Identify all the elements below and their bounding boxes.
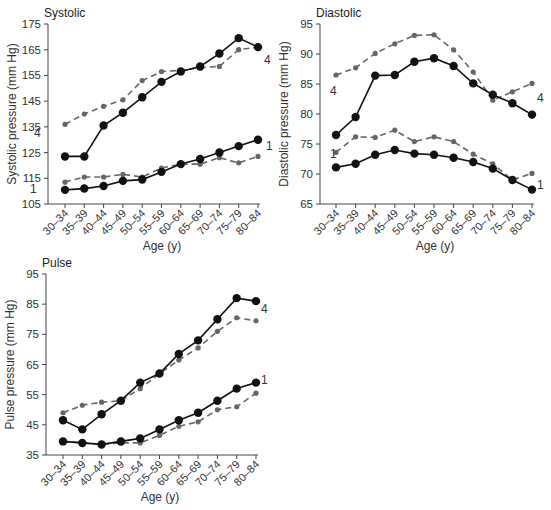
data-point bbox=[373, 135, 378, 140]
y-tick-label: 75 bbox=[26, 328, 39, 340]
data-point bbox=[99, 182, 107, 190]
y-axis-label: Pulse pressure (mm Hg) bbox=[3, 299, 17, 429]
systolic-chart: Systolic10511512513514515516517530–3435–… bbox=[5, 6, 273, 253]
data-point bbox=[80, 403, 85, 408]
data-point bbox=[140, 78, 145, 83]
series-4-dashed bbox=[60, 315, 258, 415]
data-point bbox=[451, 139, 456, 144]
data-point bbox=[235, 142, 243, 150]
data-point bbox=[410, 149, 418, 157]
data-point bbox=[471, 152, 476, 157]
data-point bbox=[392, 41, 397, 46]
x-axis-label: Age (y) bbox=[143, 239, 182, 253]
data-point bbox=[391, 71, 399, 79]
data-point bbox=[196, 419, 201, 424]
data-point bbox=[157, 433, 162, 438]
series-4-solid bbox=[59, 294, 260, 434]
data-point bbox=[215, 407, 220, 412]
data-point bbox=[235, 34, 243, 42]
data-point bbox=[155, 425, 163, 433]
data-point bbox=[61, 152, 69, 160]
chart-title: Systolic bbox=[44, 6, 85, 20]
series-label: 4 bbox=[330, 84, 337, 98]
data-point bbox=[233, 294, 241, 302]
data-point bbox=[391, 146, 399, 154]
y-tick-label: 95 bbox=[26, 268, 39, 280]
y-tick-label: 175 bbox=[22, 18, 41, 30]
data-point bbox=[351, 113, 359, 121]
data-point bbox=[177, 67, 185, 75]
data-point bbox=[371, 71, 379, 79]
data-point bbox=[412, 33, 417, 38]
data-point bbox=[101, 104, 106, 109]
data-point bbox=[119, 177, 127, 185]
data-point bbox=[469, 79, 477, 87]
data-point bbox=[138, 175, 146, 183]
data-point bbox=[431, 32, 436, 37]
data-point bbox=[194, 336, 202, 344]
data-point bbox=[410, 58, 418, 66]
data-point bbox=[449, 154, 457, 162]
data-point bbox=[217, 64, 222, 69]
data-point bbox=[412, 139, 417, 144]
y-tick-label: 95 bbox=[300, 18, 313, 30]
blood-pressure-charts: Systolic10511512513514515516517530–3435–… bbox=[0, 0, 551, 510]
data-point bbox=[61, 186, 69, 194]
data-point bbox=[451, 47, 456, 52]
y-tick-label: 65 bbox=[26, 359, 39, 371]
diastolic-chart: Diastolic6570758085909530–3435–3940–4445… bbox=[277, 6, 544, 253]
data-point bbox=[489, 164, 497, 172]
y-tick-label: 85 bbox=[26, 298, 39, 310]
data-point bbox=[234, 315, 239, 320]
data-point bbox=[138, 93, 146, 101]
data-point bbox=[236, 47, 241, 52]
data-point bbox=[78, 439, 86, 447]
data-point bbox=[194, 409, 202, 417]
y-tick-label: 85 bbox=[300, 78, 313, 90]
y-tick-label: 105 bbox=[22, 198, 41, 210]
data-point bbox=[215, 148, 223, 156]
data-point bbox=[215, 329, 220, 334]
data-point bbox=[78, 425, 86, 433]
data-point bbox=[155, 369, 163, 377]
data-point bbox=[196, 62, 204, 70]
data-point bbox=[252, 378, 260, 386]
axis-lines bbox=[48, 24, 260, 204]
data-point bbox=[528, 110, 536, 118]
y-tick-label: 55 bbox=[26, 389, 39, 401]
data-point bbox=[333, 72, 338, 77]
data-point bbox=[353, 65, 358, 70]
y-tick-label: 90 bbox=[300, 48, 313, 60]
data-point bbox=[449, 62, 457, 70]
data-point bbox=[97, 410, 105, 418]
data-point bbox=[213, 397, 221, 405]
data-point bbox=[59, 437, 67, 445]
data-point bbox=[59, 416, 67, 424]
data-point bbox=[196, 155, 204, 163]
data-point bbox=[82, 111, 87, 116]
data-point bbox=[82, 174, 87, 179]
data-point bbox=[215, 49, 223, 57]
data-point bbox=[253, 391, 258, 396]
series-1-solid bbox=[332, 146, 536, 194]
data-point bbox=[373, 51, 378, 56]
data-point bbox=[253, 318, 258, 323]
series-4-solid bbox=[61, 34, 262, 161]
data-point bbox=[176, 357, 181, 362]
data-point bbox=[529, 171, 534, 176]
data-point bbox=[176, 424, 181, 429]
data-point bbox=[332, 131, 340, 139]
y-tick-label: 80 bbox=[300, 108, 313, 120]
data-point bbox=[159, 69, 164, 74]
y-axis-label: Systolic pressure (mm Hg) bbox=[5, 43, 19, 184]
data-point bbox=[177, 160, 185, 168]
data-point bbox=[213, 315, 221, 323]
data-point bbox=[97, 440, 105, 448]
data-point bbox=[351, 160, 359, 168]
data-point bbox=[508, 99, 516, 107]
data-point bbox=[431, 134, 436, 139]
y-tick-label: 125 bbox=[22, 147, 41, 159]
data-point bbox=[117, 437, 125, 445]
data-point bbox=[392, 128, 397, 133]
data-point bbox=[157, 78, 165, 86]
